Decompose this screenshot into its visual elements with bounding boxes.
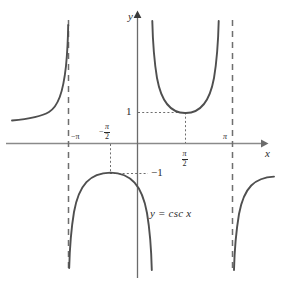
tick-label-pi: π (223, 133, 227, 141)
y-axis-label: y (128, 11, 133, 22)
tick-label-neg-half-pi: − π 2 (99, 123, 110, 141)
branch-right-upper (152, 21, 218, 113)
csc-function-graph-figure: y x 1 −1 −π π − π 2 π 2 y = csc x (0, 0, 287, 292)
tick-label-negative-one: −1 (151, 167, 163, 178)
tick-label-neg-pi: −π (71, 133, 80, 141)
csc-curve (12, 21, 274, 270)
branch-left-lower (69, 173, 152, 270)
equation-annotation: y = csc x (150, 208, 191, 219)
y-axis-arrowhead (134, 11, 142, 19)
tick-label-half-pi: π 2 (181, 150, 188, 168)
neg-half-pi-sign: − (99, 128, 104, 136)
half-pi-numerator: π (182, 150, 188, 158)
plot-canvas (0, 0, 287, 292)
tick-label-one: 1 (126, 106, 132, 117)
branch-left-upper (12, 25, 68, 121)
neg-half-pi-denominator: 2 (104, 133, 110, 141)
branch-right-lower (234, 177, 274, 270)
neg-half-pi-fraction: π 2 (104, 123, 110, 141)
half-pi-denominator: 2 (182, 160, 188, 168)
half-pi-fraction: π 2 (182, 150, 188, 168)
neg-half-pi-numerator: π (104, 123, 110, 131)
x-axis-label: x (265, 148, 270, 159)
